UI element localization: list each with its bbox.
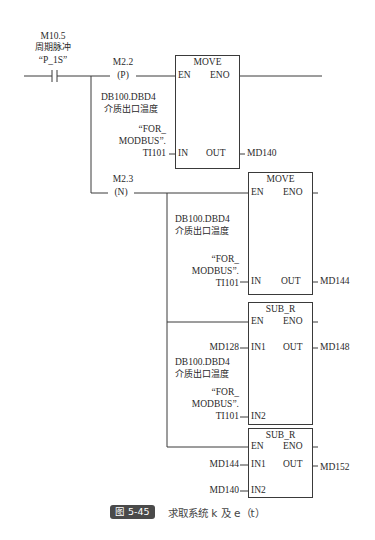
contact-comment: 周期脉冲 [28, 42, 78, 53]
move2-en: EN [251, 187, 264, 198]
sub2-out: OUT [283, 459, 303, 470]
coil-n-symbol: (N) [108, 187, 134, 198]
sub1-in2-symbol-2: MODBUS”. [180, 399, 239, 410]
sub2-eno: ENO [283, 441, 303, 452]
sub1-out-operand: MD148 [320, 342, 350, 353]
sub1-en: EN [251, 316, 264, 327]
sub2-en: EN [251, 441, 264, 452]
sub1-in2: IN2 [251, 411, 266, 422]
contact-symbol: “P_1S” [28, 55, 78, 66]
sub2-in1: IN1 [251, 459, 266, 470]
sub2-out-operand: MD152 [320, 462, 350, 473]
sub1-eno: ENO [283, 316, 303, 327]
move2-eno: ENO [283, 187, 303, 198]
move1-in-symbol-3: TI101 [110, 148, 166, 159]
sub1-out: OUT [283, 342, 303, 353]
move1-in-symbol-1: “FOR_ [110, 124, 166, 135]
move2-in-symbol-2: MODBUS”. [180, 266, 239, 277]
move2-in-symbol-3: TI101 [180, 278, 239, 289]
move2-out-operand: MD144 [320, 276, 350, 287]
figure-caption: 求取系统 k 及 e（t） [168, 505, 265, 520]
sub1-in2-symbol-3: TI101 [180, 411, 239, 422]
move1-en: EN [178, 70, 191, 81]
move2-in-address: DB100.DBD4 [175, 214, 230, 225]
contact-address: M10.5 [28, 31, 78, 42]
sub2-in2-operand: MD140 [180, 485, 239, 496]
move2-in: IN [251, 276, 261, 287]
sub1-in2-address: DB100.DBD4 [175, 357, 230, 368]
move2-in-symbol-1: “FOR_ [180, 254, 239, 265]
move2-title: MOVE [248, 174, 313, 185]
move1-eno: ENO [210, 70, 230, 81]
sub1-in1: IN1 [251, 342, 266, 353]
sub1-in1-operand: MD128 [180, 342, 239, 353]
sub1-title: SUB_R [248, 304, 313, 315]
move1-out-operand: MD140 [247, 148, 277, 159]
move1-in-symbol-2: MODBUS”. [110, 136, 166, 147]
coil-n-address: M2.3 [106, 174, 140, 185]
move2-out: OUT [281, 276, 301, 287]
sub2-in1-operand: MD144 [180, 459, 239, 470]
coil-p-address: M2.2 [106, 57, 140, 68]
sub1-in2-symbol-1: “FOR_ [180, 387, 239, 398]
sub2-in2: IN2 [251, 485, 266, 496]
move1-out: OUT [206, 148, 226, 159]
sub2-title: SUB_R [248, 430, 313, 441]
move1-in-comment: 介质出口温度 [104, 104, 158, 115]
move2-in-comment: 介质出口温度 [175, 226, 229, 237]
move1-in-address: DB100.DBD4 [101, 92, 156, 103]
sub1-in2-comment: 介质出口温度 [175, 369, 229, 380]
coil-p-symbol: (P) [110, 70, 136, 81]
move1-title: MOVE [175, 57, 240, 68]
move1-in: IN [178, 148, 188, 159]
figure-badge: 图 5-45 [110, 505, 155, 519]
